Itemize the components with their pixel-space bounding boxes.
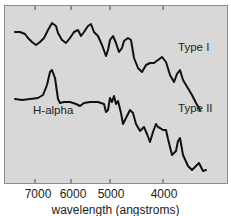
type-1-label: Type I <box>178 41 209 53</box>
bottom-ticks <box>35 179 163 183</box>
tick-label-4000: 4000 <box>151 187 178 201</box>
h-alpha-label: H-alpha <box>33 104 73 116</box>
tick-label-7000: 7000 <box>25 187 52 201</box>
type-2-label: Type II <box>178 102 213 114</box>
x-axis-label: wavelength (angstroms) <box>0 203 231 216</box>
tick-label-6000: 6000 <box>60 187 87 201</box>
type-2-spectrum <box>15 70 206 171</box>
type-1-spectrum <box>15 23 200 110</box>
top-ticks <box>35 6 163 10</box>
tick-label-5000: 5000 <box>98 187 125 201</box>
